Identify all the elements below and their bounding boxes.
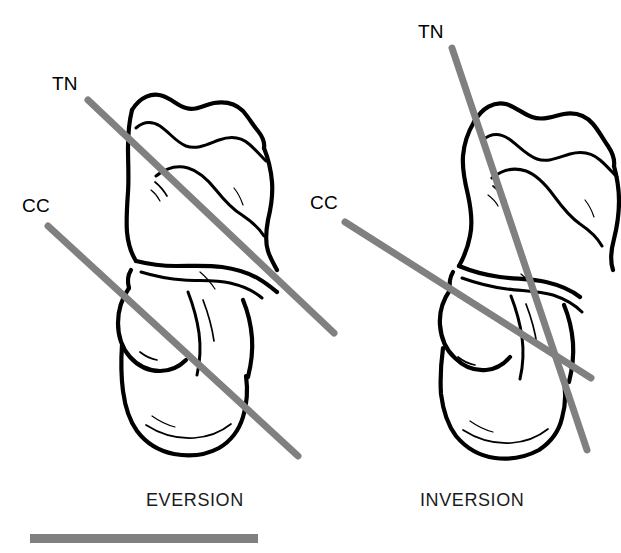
scale-bar	[30, 534, 258, 543]
scale-bar-layer	[0, 0, 621, 553]
anatomical-figure: TN CC TN CC EVERSION INVERSION	[0, 0, 621, 553]
